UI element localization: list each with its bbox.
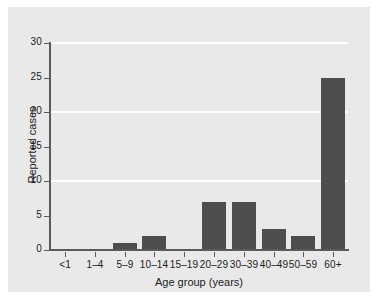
bar <box>232 202 256 250</box>
x-tick-mark <box>244 252 245 257</box>
x-axis-title: Age group (years) <box>50 276 348 288</box>
x-tick-mark <box>303 252 304 257</box>
bar <box>321 78 345 251</box>
x-tick-label: 60+ <box>324 259 341 270</box>
x-tick-mark <box>125 252 126 257</box>
x-tick-mark <box>65 252 66 257</box>
plot-area <box>50 43 348 250</box>
x-tick-label: <1 <box>59 259 71 270</box>
x-tick-label: 40–49 <box>260 259 288 270</box>
y-tick-mark <box>44 43 50 44</box>
x-tick-label: 1–4 <box>87 259 104 270</box>
y-tick-label: 25 <box>16 71 42 82</box>
bar <box>202 202 226 250</box>
y-tick-mark <box>44 216 50 217</box>
gridline <box>50 111 348 113</box>
y-tick-label: 30 <box>16 36 42 47</box>
bar <box>291 236 315 250</box>
x-tick-mark <box>333 252 334 257</box>
x-tick-mark <box>274 252 275 257</box>
x-tick-label: 50–59 <box>289 259 317 270</box>
y-tick-mark <box>44 147 50 148</box>
x-tick-mark <box>154 252 155 257</box>
y-tick-mark <box>44 78 50 79</box>
x-tick-mark <box>95 252 96 257</box>
y-tick-mark <box>44 181 50 182</box>
y-tick-mark <box>44 112 50 113</box>
figure-panel: 051015202530 <11–45–910–1415–1920–2930–3… <box>8 7 370 292</box>
y-tick-mark <box>44 250 50 251</box>
bar <box>142 236 166 250</box>
x-axis-line <box>49 249 349 251</box>
y-tick-label: 5 <box>16 209 42 220</box>
bar-chart-figure: 051015202530 <11–45–910–1415–1920–2930–3… <box>0 0 378 306</box>
x-tick-mark <box>184 252 185 257</box>
y-tick-label: 0 <box>16 243 42 254</box>
gridline <box>50 180 348 182</box>
x-tick-label: 10–14 <box>140 259 168 270</box>
y-axis-title: Reported cases <box>26 90 38 200</box>
x-tick-mark <box>214 252 215 257</box>
x-tick-label: 20–29 <box>200 259 228 270</box>
x-tick-label: 5–9 <box>117 259 134 270</box>
x-tick-label: 15–19 <box>170 259 198 270</box>
gridline <box>50 42 348 44</box>
x-tick-label: 30–39 <box>230 259 258 270</box>
bar <box>262 229 286 250</box>
